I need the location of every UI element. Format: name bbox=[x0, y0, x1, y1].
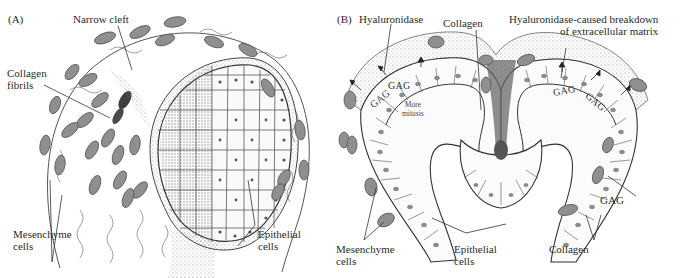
label-epithelial-cells-a: Epithelial cells bbox=[258, 228, 301, 252]
label-mesenchyme-cells-b: Mesenchyme cells bbox=[336, 243, 395, 267]
label-more-mitosis: More mitosis bbox=[402, 101, 424, 118]
label-hyaluronidase: Hyaluronidase bbox=[359, 13, 423, 25]
label-collagen-top: Collagen bbox=[443, 17, 483, 29]
central-bulb-core bbox=[494, 140, 508, 160]
cleft-cells bbox=[110, 70, 150, 130]
label-ecm-breakdown: Hyaluronidase-caused breakdown of extrac… bbox=[502, 13, 658, 37]
label-mesenchyme-cells-a: Mesenchyme cells bbox=[13, 228, 72, 252]
label-collagen-fibrils: Collagen fibrils bbox=[7, 67, 47, 91]
panel-b-illustration bbox=[336, 0, 684, 278]
label-narrow-cleft: Narrow cleft bbox=[73, 13, 129, 25]
panel-a: (A) Narrow cleft Collagen fibrils Mesenc… bbox=[0, 0, 336, 278]
label-epithelial-cells-b: Epithelial cells bbox=[454, 243, 497, 267]
label-gag-side: GAG bbox=[600, 194, 624, 206]
label-collagen-bottom: Collagen bbox=[549, 243, 589, 255]
label-gag-left-2: GAG bbox=[388, 80, 411, 92]
panel-b: (B) Hyaluronidase Collagen Hyaluronidase… bbox=[336, 0, 684, 278]
panel-a-tag: (A) bbox=[8, 13, 23, 25]
panel-b-tag: (B) bbox=[337, 13, 352, 25]
